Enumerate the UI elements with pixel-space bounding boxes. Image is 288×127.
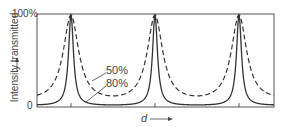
chart-plot: [0, 0, 288, 127]
annotation-80: 80%: [106, 78, 128, 89]
x-ticks: [71, 103, 239, 107]
arrow-80: [86, 86, 106, 102]
annotation-50: 50%: [106, 65, 128, 76]
y-axis-label: Intensity transmitted: [9, 8, 20, 108]
y-tick-0: 0: [27, 101, 33, 111]
x-axis-label: d: [141, 113, 147, 124]
arrow-50: [92, 73, 106, 81]
curve-80-percent: [37, 15, 274, 105]
